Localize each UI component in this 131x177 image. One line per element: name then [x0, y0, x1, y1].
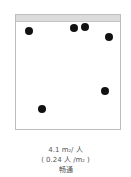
person-dot	[81, 23, 89, 31]
person-dot	[25, 27, 33, 35]
per-area-value: ( 0.24 人 /m	[41, 156, 82, 164]
caption-per-area: ( 0.24 人 /m2 )	[0, 156, 131, 165]
person-dot	[38, 105, 46, 113]
per-area-suffix: )	[85, 156, 90, 164]
density-unit: / 人	[71, 146, 83, 154]
caption-status: 畅通	[0, 166, 131, 175]
person-dot	[70, 24, 78, 32]
area-top-bar	[16, 15, 120, 22]
density-value: 4.1 m	[48, 146, 68, 154]
caption-density: 4.1 m2/ 人	[0, 146, 131, 155]
person-dot	[105, 33, 113, 41]
person-dot	[101, 87, 109, 95]
